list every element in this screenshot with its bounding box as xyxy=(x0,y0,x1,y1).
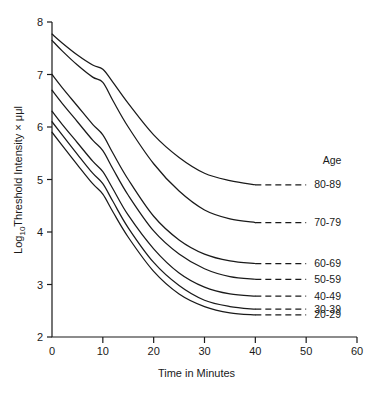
y-tick-label: 5 xyxy=(37,174,43,186)
curve-series-group xyxy=(52,34,306,315)
dark-adaptation-chart: 2345678010203040506080-8970-7960-6950-59… xyxy=(0,0,385,393)
legend-label-50-59: 50-59 xyxy=(314,273,341,285)
axis-lines xyxy=(52,22,357,337)
y-tick-label: 8 xyxy=(37,16,43,28)
chart-plot-area: 2345678010203040506080-8970-7960-6950-59… xyxy=(0,0,385,393)
curve-20-29 xyxy=(52,132,255,315)
legend-label-70-79: 70-79 xyxy=(314,216,341,228)
x-tick-label: 0 xyxy=(49,345,55,357)
x-tick-label: 50 xyxy=(300,345,312,357)
x-tick-label: 40 xyxy=(249,345,261,357)
y-tick-label: 2 xyxy=(37,331,43,343)
curve-70-79 xyxy=(52,40,255,222)
y-tick-label: 6 xyxy=(37,121,43,133)
curve-40-49 xyxy=(52,111,255,296)
x-tick-label: 30 xyxy=(198,345,210,357)
x-tick-label: 10 xyxy=(97,345,109,357)
curve-60-69 xyxy=(52,75,255,264)
curve-80-89 xyxy=(52,34,255,185)
legend-label-80-89: 80-89 xyxy=(314,178,341,190)
svg-text:Log10Threshold Intensity × μμl: Log10Threshold Intensity × μμl xyxy=(12,106,27,254)
x-axis-title: Time in Minutes xyxy=(158,367,236,379)
y-tick-label: 3 xyxy=(37,279,43,291)
legend-title: Age xyxy=(323,154,342,166)
x-tick-label: 60 xyxy=(351,345,363,357)
axis-and-legend-labels: 2345678010203040506080-8970-7960-6950-59… xyxy=(12,16,363,379)
y-tick-label: 4 xyxy=(37,226,43,238)
legend-label-40-49: 40-49 xyxy=(314,290,341,302)
axes xyxy=(47,22,357,343)
x-tick-label: 20 xyxy=(148,345,160,357)
curve-50-59 xyxy=(52,90,255,279)
y-tick-label: 7 xyxy=(37,69,43,81)
y-axis-title: Log10Threshold Intensity × μμl xyxy=(12,106,27,254)
legend-label-60-69: 60-69 xyxy=(314,257,341,269)
legend-label-20-29: 20-29 xyxy=(314,308,341,320)
